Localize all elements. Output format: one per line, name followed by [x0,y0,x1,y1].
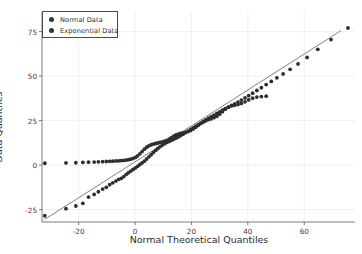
y-tick-label: 75 [28,27,37,36]
y-tick-label: 25 [28,116,37,125]
series-exponential-data [43,94,268,165]
x-tick-label: 20 [187,227,196,236]
legend-label-normal-data: Normal Data [60,16,103,24]
chart-legend[interactable]: Normal Data Exponential Data [42,11,118,38]
axis-spines [42,12,355,222]
series-normal-data [43,26,350,218]
reference-line [45,31,341,220]
y-tick-label: -25 [25,205,37,214]
x-tick-label: 0 [133,227,138,236]
legend-item-exponential-data[interactable]: Exponential Data [46,25,114,36]
x-tick-label: 40 [243,227,252,236]
qq-plot-figure: Data Quantiles Normal Theoretical Quanti… [0,0,362,254]
gridlines [42,12,355,222]
circle-marker-icon [49,17,54,22]
plot-canvas [0,0,362,254]
legend-item-normal-data[interactable]: Normal Data [46,14,114,25]
x-tick-label: -20 [73,227,85,236]
y-tick-label: 50 [28,72,37,81]
x-tick-label: 60 [300,227,309,236]
legend-label-exponential-data: Exponential Data [60,27,118,35]
y-tick-label: 0 [32,161,37,170]
circle-marker-icon [49,28,54,33]
